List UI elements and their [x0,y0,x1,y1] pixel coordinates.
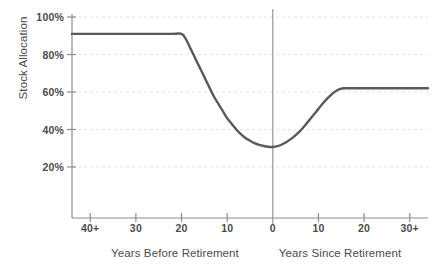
y-tick-label: 100% [36,11,64,23]
x-tick-label: 40+ [81,222,99,234]
gridlines [72,17,428,167]
x-axis-title-left: Years Before Retirement [111,247,239,259]
x-tick-label: 10 [312,222,324,234]
x-tick-label: 20 [358,222,370,234]
x-tick-label: 20 [175,222,187,234]
y-tick-label: 20% [42,161,64,173]
chart-plot-area [0,0,440,275]
x-axis-title-right: Years Since Retirement [279,247,402,259]
y-tick-label: 60% [42,86,64,98]
y-axis-tick-labels: 100%80%60%40%20% [28,0,64,275]
x-tick-label: 30 [130,222,142,234]
x-tick-label: 10 [221,222,233,234]
y-tick-label: 40% [42,124,64,136]
y-tick-label: 80% [42,49,64,61]
chart-container: Stock Allocation 100%80%60%40%20% 40+302… [0,0,440,275]
axes [72,14,428,218]
x-tick-label: 30+ [401,222,419,234]
x-tick-label: 0 [270,222,276,234]
